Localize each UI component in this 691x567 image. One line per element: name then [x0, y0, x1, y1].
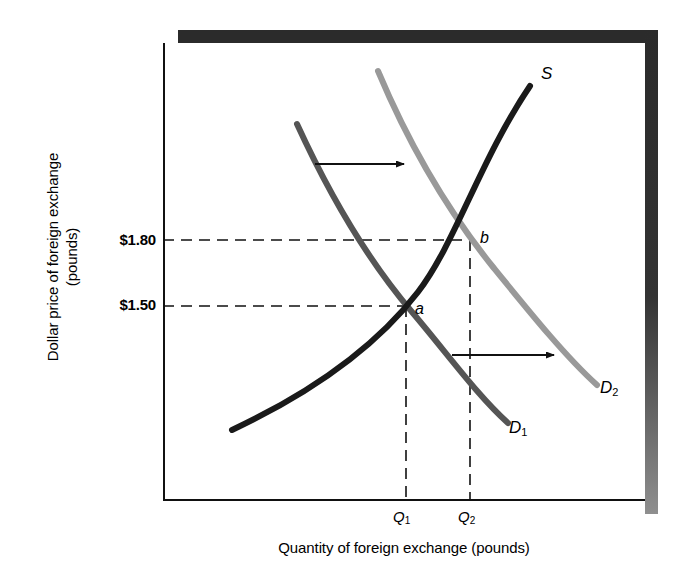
equilibrium-point-b-label: b — [480, 229, 489, 247]
quantity-tick-1-subscript: 1 — [405, 515, 411, 526]
supply-curve-label: S — [541, 64, 552, 84]
demand-d1-label-letter: D — [509, 418, 521, 437]
quantity-tick-2: Q2 — [458, 508, 475, 526]
price-tick-low: $1.50 — [78, 296, 156, 313]
price-tick-high: $1.80 — [78, 231, 156, 248]
supply-curve-label-letter: S — [541, 64, 552, 83]
quantity-tick-2-subscript: 2 — [470, 515, 476, 526]
x-axis-title: Quantity of foreign exchange (pounds) — [163, 539, 645, 556]
quantity-tick-1: Q1 — [393, 508, 410, 526]
demand-d2-label-subscript: 2 — [612, 386, 618, 398]
y-axis-title: Dollar price of foreign exchange (pounds… — [43, 107, 81, 407]
demand-curve-d2 — [378, 71, 597, 385]
quantity-tick-1-letter: Q — [393, 508, 405, 525]
price-guide-lines — [163, 240, 470, 306]
demand-d1-label-subscript: 1 — [521, 426, 527, 438]
demand-d2-label-letter: D — [600, 378, 612, 397]
exchange-rate-figure: Dollar price of foreign exchange (pounds… — [0, 0, 691, 567]
demand-curve-d2-label: D2 — [600, 378, 618, 398]
quantity-tick-2-letter: Q — [458, 508, 470, 525]
demand-curve-d1-label: D1 — [509, 418, 527, 438]
plot-graphics — [0, 0, 691, 567]
equilibrium-point-a-label: a — [415, 300, 424, 318]
